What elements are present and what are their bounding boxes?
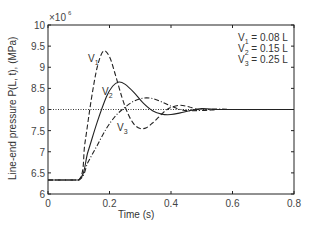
svg-text:6: 6 xyxy=(68,10,72,16)
y-tick-label: 9 xyxy=(39,62,45,73)
data-series xyxy=(48,51,294,180)
x-tick-label: 0.2 xyxy=(103,198,117,209)
x-tick-label: 0 xyxy=(45,198,51,209)
y-tick-label: 8.5 xyxy=(31,83,45,94)
y-axis-label: Line-end pressure P(L, t), (MPa) xyxy=(7,37,18,180)
y-tick-label: 6 xyxy=(39,189,45,200)
y-tick-label: 7 xyxy=(39,147,45,158)
y-tick-label: 8 xyxy=(39,105,45,116)
line-chart: 00.20.40.60.866.577.588.599.510 Time (s)… xyxy=(0,0,315,229)
legend: V1 = 0.08 LV2 = 0.15 LV3 = 0.25 L xyxy=(238,32,288,67)
x-tick-label: 0.4 xyxy=(164,198,178,209)
svg-text:×10: ×10 xyxy=(49,12,66,23)
y-multiplier: ×10 6 xyxy=(49,10,72,23)
curve-label-v1: V1 xyxy=(88,53,99,66)
y-tick-label: 7.5 xyxy=(31,126,45,137)
x-axis-label: Time (s) xyxy=(118,209,154,220)
y-tick-label: 9.5 xyxy=(31,41,45,52)
series-line-v1 xyxy=(48,51,294,180)
x-tick-label: 0.6 xyxy=(226,198,240,209)
series-line-v2 xyxy=(48,82,294,180)
x-tick-label: 0.8 xyxy=(287,198,301,209)
y-tick-label: 6.5 xyxy=(31,168,45,179)
curve-label-v3: V3 xyxy=(117,122,128,135)
curve-labels: V1V2V3 xyxy=(88,53,128,135)
y-tick-label: 10 xyxy=(34,20,46,31)
